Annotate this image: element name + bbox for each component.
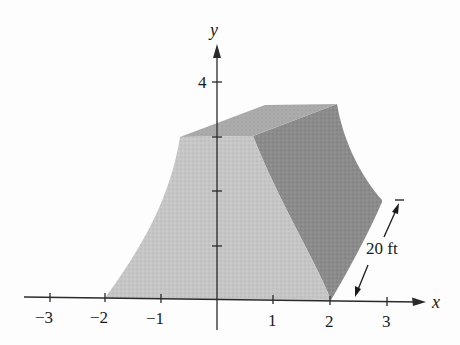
x-axis-label: x — [431, 292, 440, 312]
y-axis-label: y — [208, 20, 218, 40]
x-tick-2: 2 — [325, 312, 334, 331]
solid-diagram: y x 4 −3 −2 −1 1 2 3 20 ft — [0, 0, 460, 345]
x-tick-3: 3 — [382, 312, 391, 331]
y-axis-arrow-icon — [213, 44, 221, 58]
y-tick-4: 4 — [198, 73, 207, 92]
x-tick-neg2: −2 — [90, 308, 108, 327]
x-tick-1: 1 — [268, 311, 277, 330]
dimension-label: 20 ft — [366, 239, 398, 258]
figure-canvas: y x 4 −3 −2 −1 1 2 3 20 ft — [0, 0, 460, 345]
x-axis-arrow-icon — [412, 298, 426, 307]
x-tick-neg3: −3 — [35, 308, 53, 327]
arrowhead-up-icon — [392, 203, 399, 214]
arrowhead-down-icon — [355, 286, 361, 297]
x-tick-neg1: −1 — [146, 309, 164, 328]
